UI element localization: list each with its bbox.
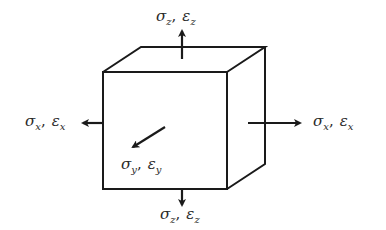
separator: , (41, 112, 46, 130)
label-right-sigma-x-eps-x: σx,εx (313, 114, 353, 129)
separator: , (137, 155, 142, 173)
sigma-symbol: σ (156, 7, 166, 25)
label-top-sigma-z-eps-z: σz,εz (156, 9, 196, 24)
epsilon-subscript: z (190, 16, 195, 27)
sigma-subscript: z (170, 214, 175, 225)
sigma-subscript: x (35, 121, 41, 132)
arrow-y-front (133, 127, 165, 147)
cube-top-face (103, 47, 265, 72)
label-bottom-sigma-z-eps-z: σz,εz (160, 207, 200, 222)
sigma-subscript: z (166, 16, 171, 27)
sigma-symbol: σ (25, 112, 35, 130)
epsilon-subscript: x (348, 121, 354, 132)
epsilon-subscript: x (60, 121, 66, 132)
sigma-symbol: σ (160, 205, 170, 223)
stress-cube-diagram: σz,εz σz,εz σx,εx σx,εx σy,εy (0, 0, 386, 230)
epsilon-symbol: ε (340, 112, 348, 130)
label-front-sigma-y-eps-y: σy,εy (121, 157, 161, 172)
epsilon-symbol: ε (148, 155, 156, 173)
separator: , (172, 7, 177, 25)
separator: , (329, 112, 334, 130)
epsilon-symbol: ε (52, 112, 60, 130)
sigma-symbol: σ (121, 155, 131, 173)
epsilon-subscript: z (194, 214, 199, 225)
sigma-symbol: σ (313, 112, 323, 130)
label-left-sigma-x-eps-x: σx,εx (25, 114, 65, 129)
separator: , (176, 205, 181, 223)
sigma-subscript: x (323, 121, 329, 132)
epsilon-subscript: y (156, 164, 162, 175)
sigma-subscript: y (131, 164, 137, 175)
